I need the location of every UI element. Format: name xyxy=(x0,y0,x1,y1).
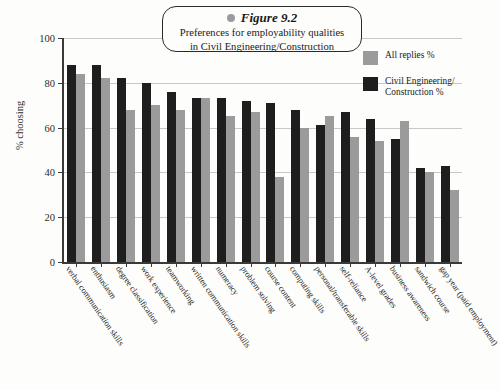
bar-all-replies xyxy=(450,190,459,262)
bar-all-replies xyxy=(126,110,135,262)
bar-group xyxy=(139,38,164,262)
bar-civil-engineering xyxy=(341,112,350,262)
legend-item: Civil Engineering/ Construction % xyxy=(363,76,465,98)
bar-group xyxy=(114,38,139,262)
bar-all-replies xyxy=(400,121,409,262)
bar-civil-engineering xyxy=(217,98,226,262)
figure-subtitle-line1: Preferences for employability qualities xyxy=(163,26,361,40)
bar-civil-engineering xyxy=(67,65,76,262)
x-axis-labels: verbal communication skillsenthusiasmdeg… xyxy=(62,264,460,388)
bar-all-replies xyxy=(425,172,434,262)
y-axis-tick-label: 20 xyxy=(45,212,56,223)
bar-civil-engineering xyxy=(291,110,300,262)
bar-civil-engineering xyxy=(266,103,275,262)
bar-group xyxy=(188,38,213,262)
gray-dot-icon xyxy=(227,14,235,22)
bar-group xyxy=(288,38,313,262)
bar-civil-engineering xyxy=(92,65,101,262)
bar-civil-engineering xyxy=(366,119,375,262)
bar-group xyxy=(263,38,288,262)
legend-label: Civil Engineering/ Construction % xyxy=(385,76,465,98)
figure-label: Figure 9.2 xyxy=(241,10,297,26)
y-axis-tick-label: 40 xyxy=(45,167,56,178)
legend-label: All replies % xyxy=(385,50,434,61)
y-axis-tick-label: 60 xyxy=(45,122,56,133)
x-axis-label: degree classification xyxy=(114,264,161,326)
bar-group xyxy=(338,38,363,262)
bar-all-replies xyxy=(300,128,309,262)
bar-civil-engineering xyxy=(416,168,425,262)
bar-all-replies xyxy=(201,98,210,262)
bar-all-replies xyxy=(251,112,260,262)
bar-civil-engineering xyxy=(117,78,126,262)
bar-group xyxy=(313,38,338,262)
bar-civil-engineering xyxy=(192,98,201,262)
bar-group xyxy=(164,38,189,262)
y-axis-tick-label: 100 xyxy=(39,33,55,44)
bar-all-replies xyxy=(226,116,235,262)
bar-all-replies xyxy=(275,177,284,262)
bar-group xyxy=(64,38,89,262)
bar-civil-engineering xyxy=(242,101,251,262)
y-axis-tick xyxy=(58,262,64,263)
bar-all-replies xyxy=(350,137,359,262)
bar-all-replies xyxy=(101,78,110,262)
bar-civil-engineering xyxy=(167,92,176,262)
bar-civil-engineering xyxy=(316,125,325,262)
bar-all-replies xyxy=(76,74,85,262)
y-axis-title: % choosing xyxy=(14,101,25,150)
bar-group xyxy=(213,38,238,262)
legend-item: All replies % xyxy=(363,50,465,65)
bar-all-replies xyxy=(176,110,185,262)
figure-title-line: Figure 9.2 xyxy=(163,9,361,26)
legend: All replies %Civil Engineering/ Construc… xyxy=(363,50,465,109)
bar-civil-engineering xyxy=(441,166,450,262)
bar-civil-engineering xyxy=(391,139,400,262)
figure-callout: Figure 9.2 Preferences for employability… xyxy=(162,6,362,52)
light-gray-swatch xyxy=(363,51,378,65)
bar-group xyxy=(238,38,263,262)
x-axis-label: numeracy xyxy=(213,264,240,297)
bar-civil-engineering xyxy=(142,83,151,262)
black-swatch xyxy=(363,77,378,91)
bar-group xyxy=(89,38,114,262)
bar-all-replies xyxy=(325,116,334,262)
y-axis-tick-label: 0 xyxy=(50,257,55,268)
y-axis-tick-label: 80 xyxy=(45,77,56,88)
bar-all-replies xyxy=(375,141,384,262)
bar-all-replies xyxy=(151,105,160,262)
figure-subtitle-line2: in Civil Engineering/Construction xyxy=(163,40,361,54)
